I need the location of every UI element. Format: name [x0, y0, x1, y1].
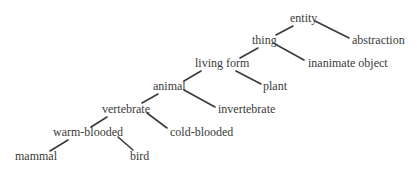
node-warm-blooded: warm-blooded	[53, 125, 123, 139]
edge-living-form-animal	[184, 71, 201, 81]
node-inanimate-object: inanimate object	[308, 56, 388, 70]
nodes: entity abstraction thing inanimate objec…	[15, 11, 405, 163]
node-cold-blooded: cold-blooded	[170, 125, 233, 139]
node-entity: entity	[290, 11, 317, 25]
node-bird: bird	[130, 149, 149, 163]
taxonomy-tree-diagram: entity abstraction thing inanimate objec…	[0, 0, 417, 173]
edge-entity-abstraction	[315, 21, 349, 38]
edge-thing-inanimate-object	[275, 44, 304, 60]
node-invertebrate: invertebrate	[218, 102, 275, 116]
node-plant: plant	[263, 79, 288, 93]
node-vertebrate: vertebrate	[102, 102, 150, 116]
node-animal: animal	[153, 79, 186, 93]
node-abstraction: abstraction	[352, 33, 405, 47]
edge-animal-invertebrate	[184, 90, 215, 107]
edge-vertebrate-cold-blooded	[147, 113, 167, 128]
edge-living-form-plant	[236, 71, 261, 84]
node-living-form: living form	[195, 56, 250, 70]
node-thing: thing	[252, 33, 277, 47]
edge-entity-thing	[276, 26, 293, 35]
node-mammal: mammal	[15, 149, 58, 163]
